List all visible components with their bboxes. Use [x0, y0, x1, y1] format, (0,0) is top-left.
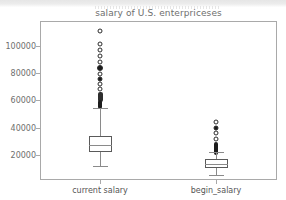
- outlier-marker: [98, 60, 103, 65]
- outlier-marker: [97, 65, 103, 71]
- upper-whisker-cap: [209, 152, 224, 153]
- upper-whisker: [216, 152, 217, 159]
- upper-whisker-cap: [93, 108, 108, 109]
- outlier-marker: [214, 137, 219, 142]
- outlier-marker: [98, 29, 103, 34]
- y-tick-label-60000: 60000: [11, 96, 36, 105]
- lower-whisker: [100, 152, 101, 166]
- x-tick-mark-current-salary: [100, 180, 101, 184]
- chart-title: salary of U.S. enterpriceses: [40, 8, 277, 18]
- outlier-marker: [214, 131, 219, 136]
- plot-area: [40, 21, 277, 180]
- lower-whisker-cap: [93, 166, 108, 167]
- upper-whisker: [100, 108, 101, 136]
- y-tick-label-100000: 100000: [5, 42, 36, 51]
- median-line-begin-salary: [205, 164, 228, 165]
- outlier-marker: [98, 54, 103, 59]
- x-tick-label-current-salary: current salary: [72, 186, 128, 195]
- y-tick-label-80000: 80000: [11, 69, 36, 78]
- x-tick-mark-begin-salary: [216, 180, 217, 184]
- lower-whisker-cap: [209, 175, 224, 176]
- y-tick-label-20000: 20000: [11, 151, 36, 160]
- y-axis: 100000 80000 60000 40000 20000: [0, 0, 36, 200]
- box-current-salary: [89, 136, 112, 152]
- lower-whisker: [216, 168, 217, 175]
- median-line-current-salary: [89, 145, 112, 146]
- boxplot-screenshot: salary of U.S. enterpriceses 100000 8000…: [0, 0, 286, 200]
- outlier-marker: [98, 87, 103, 92]
- outlier-marker: [98, 48, 103, 53]
- y-tick-label-40000: 40000: [11, 124, 36, 133]
- x-tick-label-begin-salary: begin_salary: [191, 186, 242, 195]
- outlier-marker: [214, 120, 219, 125]
- outlier-marker: [98, 42, 103, 47]
